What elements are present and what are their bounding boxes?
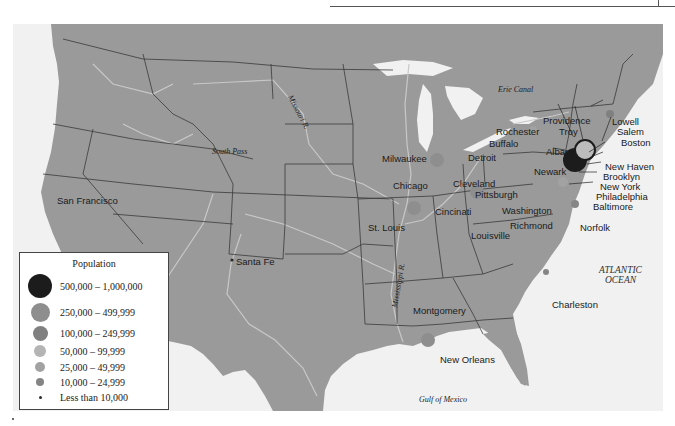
city-label-baltimore: Baltimore bbox=[593, 202, 633, 212]
header-rule bbox=[330, 6, 675, 7]
city-label-chicago: Chicago bbox=[393, 181, 428, 191]
city-label-washington: Washington bbox=[502, 206, 552, 216]
legend-symbol-circle bbox=[35, 362, 45, 372]
header-rule-tick bbox=[658, 0, 659, 7]
legend-label: 100,000 – 249,999 bbox=[60, 328, 135, 339]
marker-charleston bbox=[543, 269, 549, 275]
legend-symbol-circle bbox=[36, 378, 44, 386]
city-label-louisville: Louisville bbox=[471, 231, 510, 241]
city-label-montgomery: Montgomery bbox=[413, 306, 466, 316]
legend-row-250k-500k: 250,000 – 499,999 bbox=[20, 303, 168, 321]
marker-baltimore bbox=[558, 177, 568, 187]
city-label-milwaukee: Milwaukee bbox=[382, 154, 427, 164]
city-label-boston: Boston bbox=[621, 138, 651, 148]
city-label-rochester: Rochester bbox=[496, 127, 539, 137]
legend-label: 50,000 – 99,999 bbox=[60, 346, 125, 357]
legend-symbol-dot bbox=[39, 396, 42, 399]
city-label-troy: Troy bbox=[559, 127, 578, 137]
legend-label: 25,000 – 49,999 bbox=[60, 362, 125, 373]
marker-santa-fe bbox=[230, 258, 233, 261]
legend-label: Less than 10,000 bbox=[60, 392, 128, 403]
city-label-cincinati: Cincinati bbox=[435, 207, 471, 217]
city-label-albany: Albany bbox=[546, 147, 575, 157]
city-label-buffalo: Buffalo bbox=[489, 139, 518, 149]
population-legend: Population 500,000 – 1,000,000 250,000 –… bbox=[19, 252, 169, 410]
city-label-newark: Newark bbox=[534, 167, 566, 177]
city-label-st-louis: St. Louis bbox=[368, 223, 405, 233]
us-population-map: San Francisco Santa Fe Milwaukee Detroit… bbox=[13, 24, 663, 411]
legend-symbol-circle bbox=[33, 326, 48, 341]
legend-label: 250,000 – 499,999 bbox=[60, 307, 135, 318]
page-mark bbox=[12, 418, 14, 420]
marker-norfolk bbox=[571, 200, 579, 208]
city-label-providence: Providence bbox=[543, 116, 591, 126]
city-label-santa-fe: Santa Fe bbox=[236, 257, 275, 267]
city-label-detroit: Detroit bbox=[468, 153, 496, 163]
legend-label: 500,000 – 1,000,000 bbox=[60, 281, 143, 292]
gulf-of-mexico-label: Gulf of Mexico bbox=[419, 396, 467, 404]
atlantic-label-line2: OCEAN bbox=[599, 276, 642, 286]
city-label-cleveland: Cleveland bbox=[453, 179, 495, 189]
south-pass-label: South Pass bbox=[212, 148, 247, 156]
marker-chicago bbox=[430, 153, 444, 167]
city-label-pittsburgh: Pittsburgh bbox=[475, 190, 518, 200]
legend-row-100k-250k: 100,000 – 249,999 bbox=[20, 324, 168, 342]
legend-row-500k-1m: 500,000 – 1,000,000 bbox=[20, 277, 168, 295]
erie-canal-label: Erie Canal bbox=[498, 86, 533, 94]
legend-symbol-circle bbox=[31, 303, 50, 322]
city-label-richmond: Richmond bbox=[510, 221, 553, 231]
legend-row-lt-10k: Less than 10,000 bbox=[20, 388, 168, 406]
city-label-san-francisco: San Francisco bbox=[57, 196, 118, 206]
city-label-norfolk: Norfolk bbox=[580, 223, 610, 233]
marker-new-orleans bbox=[421, 333, 435, 347]
city-label-salem: Salem bbox=[617, 127, 644, 137]
marker-st-louis bbox=[407, 201, 421, 215]
legend-symbol-black-circle bbox=[28, 274, 52, 298]
legend-label: 10,000 – 24,999 bbox=[60, 377, 125, 388]
legend-symbol-circle bbox=[34, 345, 46, 357]
city-label-charleston: Charleston bbox=[552, 300, 598, 310]
atlantic-ocean-label: ATLANTIC OCEAN bbox=[599, 266, 642, 286]
city-label-new-orleans: New Orleans bbox=[440, 355, 495, 365]
legend-title: Population bbox=[20, 258, 168, 269]
